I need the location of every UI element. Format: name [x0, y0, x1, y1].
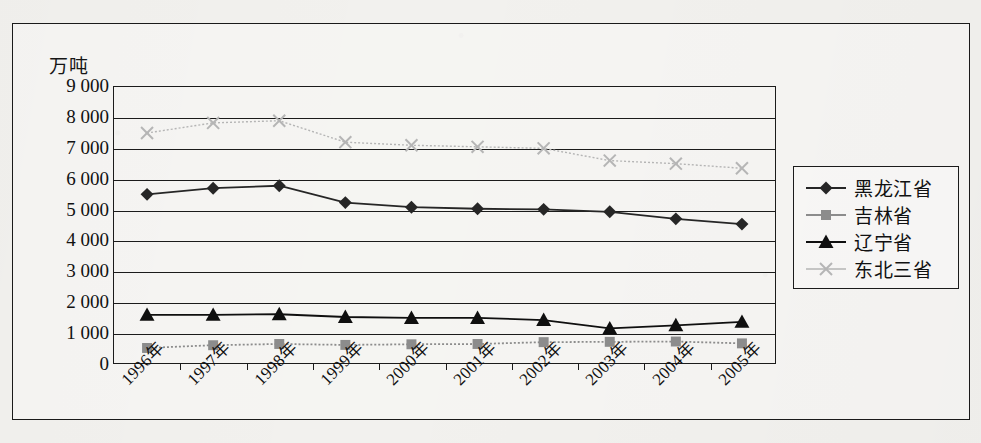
diamond-marker-icon: [669, 212, 682, 225]
diamond-marker-icon: [207, 182, 220, 195]
data-series: [141, 115, 748, 174]
square-marker-icon: [821, 210, 831, 220]
cross-marker-icon: [207, 117, 219, 129]
y-axis-tick-label: 5 000: [17, 199, 109, 221]
diamond-marker-icon: [735, 218, 748, 231]
diamond-marker-icon: [537, 203, 550, 216]
legend-item-label: 辽宁省: [854, 228, 913, 255]
x-axis-tick-mark: [313, 363, 314, 370]
x-axis-tick-mark: [512, 363, 513, 370]
legend-item[interactable]: 吉林省: [804, 201, 958, 228]
series-line: [147, 314, 742, 328]
series-line: [147, 342, 742, 348]
x-axis-tick-mark: [247, 363, 248, 370]
y-axis-tick-labels: 01 0002 0003 0004 0005 0006 0007 0008 00…: [13, 86, 109, 364]
chart-legend: 黑龙江省吉林省辽宁省东北三省: [793, 166, 959, 289]
cross-marker-icon: [804, 260, 848, 278]
data-series: [140, 307, 750, 335]
diamond-marker-icon: [804, 179, 848, 197]
x-axis-tick-mark: [379, 363, 380, 370]
legend-item[interactable]: 辽宁省: [804, 228, 958, 255]
triangle-marker-icon: [734, 314, 749, 327]
cross-marker-icon: [339, 136, 351, 148]
y-axis-tick-label: 4 000: [17, 229, 109, 251]
y-axis-tick-label: 6 000: [17, 168, 109, 190]
legend-item[interactable]: 黑龙江省: [804, 174, 958, 201]
diamond-marker-icon: [273, 179, 286, 192]
y-axis-tick-label: 3 000: [17, 260, 109, 282]
diamond-marker-icon: [141, 188, 154, 201]
y-axis-tick-label: 0: [17, 353, 109, 375]
legend-item-label: 黑龙江省: [854, 174, 932, 201]
series-line: [147, 121, 742, 169]
x-axis-tick-mark: [578, 363, 579, 370]
x-axis-tick-mark: [446, 363, 447, 370]
diamond-marker-icon: [820, 181, 833, 194]
legend-item-label: 吉林省: [854, 201, 913, 228]
y-axis-tick-label: 7 000: [17, 137, 109, 159]
triangle-marker-icon: [804, 233, 848, 251]
series-line: [147, 186, 742, 224]
x-axis-tick-mark: [711, 363, 712, 370]
y-axis-tick-label: 9 000: [17, 75, 109, 97]
legend-item[interactable]: 东北三省: [804, 255, 958, 282]
y-axis-tick-label: 2 000: [17, 291, 109, 313]
legend-item-label: 东北三省: [854, 255, 932, 282]
diamond-marker-icon: [471, 202, 484, 215]
diamond-marker-icon: [405, 201, 418, 214]
x-axis-tick-mark: [644, 363, 645, 370]
diamond-marker-icon: [603, 205, 616, 218]
figure-frame: 万吨 01 0002 0003 0004 0005 0006 0007 0008…: [12, 23, 970, 420]
square-marker-icon: [804, 206, 848, 224]
data-series: [141, 179, 749, 230]
plot-area: [113, 86, 776, 364]
series-layer: [114, 87, 775, 363]
y-axis-tick-label: 8 000: [17, 106, 109, 128]
cross-marker-icon: [736, 162, 748, 174]
y-axis-tick-label: 1 000: [17, 322, 109, 344]
y-axis-unit-label: 万吨: [49, 51, 89, 78]
diamond-marker-icon: [339, 196, 352, 209]
